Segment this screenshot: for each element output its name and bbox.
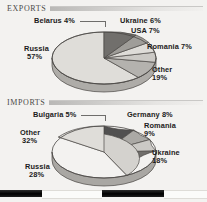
footer-segment-dark-2 — [102, 190, 163, 197]
page-background: EXPORTS — [0, 0, 207, 202]
footer-segment-light-1 — [42, 190, 103, 199]
exports-section-header: EXPORTS — [7, 3, 203, 14]
exports-label-other-value: 19% — [152, 74, 167, 83]
exports-label-belarus: Belarus 4% — [34, 17, 75, 26]
imports-section-header: IMPORTS — [7, 97, 203, 108]
imports-label-russia-value: 28% — [29, 171, 44, 180]
exports-leader-belarus — [80, 21, 106, 27]
exports-pie-chart — [44, 28, 164, 98]
footer-segment-dark-1 — [0, 190, 42, 197]
imports-chart-block: Bulgaria 5% Germany 8% Romania 9% Ukrain… — [0, 108, 207, 188]
exports-label-usa: USA 7% — [131, 27, 160, 36]
imports-title: IMPORTS — [7, 98, 45, 107]
imports-header-rule — [49, 100, 203, 105]
imports-leader-bulgaria — [81, 115, 106, 121]
exports-label-russia-value: 57% — [27, 53, 42, 62]
exports-header-rule — [50, 6, 203, 11]
exports-title: EXPORTS — [7, 4, 46, 13]
imports-label-germany: Germany 8% — [127, 111, 173, 120]
footer-segment-light-2 — [164, 190, 207, 199]
imports-label-bulgaria: Bulgaria 5% — [33, 111, 76, 120]
imports-slice-other — [58, 126, 104, 152]
imports-label-ukraine-value: 18% — [152, 157, 167, 166]
exports-label-romania: Romania 7% — [147, 43, 192, 52]
exports-chart-block: Belarus 4% Ukraine 6% USA 7% Romania 7% … — [0, 14, 207, 96]
footer-decoration-bar — [0, 190, 207, 197]
exports-label-ukraine: Ukraine 6% — [120, 17, 161, 26]
exports-pie-svg — [44, 28, 164, 94]
imports-label-romania-value: 9% — [144, 130, 155, 139]
imports-label-other-value: 32% — [22, 137, 37, 146]
